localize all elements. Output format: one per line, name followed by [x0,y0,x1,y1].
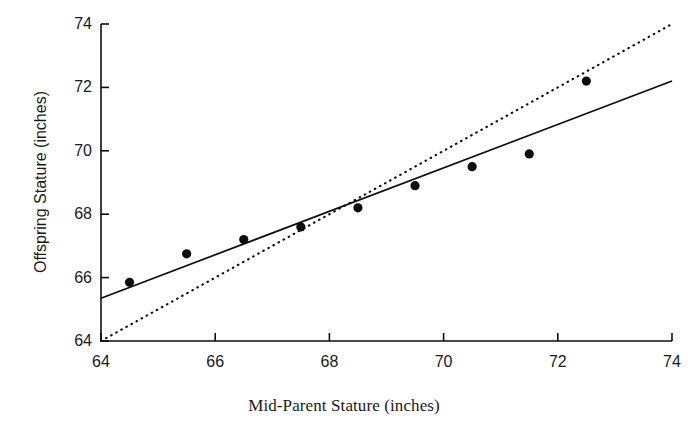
data-point [468,162,477,171]
y-axis-title: Offspring Stature (inches) [32,37,50,327]
data-point [525,149,534,158]
data-point [582,76,591,85]
x-tick-label: 70 [435,353,453,371]
data-point [296,222,305,231]
data-points [125,76,591,286]
data-point [353,203,362,212]
x-tick-label: 72 [549,353,567,371]
data-point [125,278,134,287]
x-tick-label: 74 [663,353,681,371]
y-tick-label: 74 [58,15,92,33]
data-point [182,249,191,258]
x-tick-label: 66 [206,353,224,371]
series-lines [101,24,672,341]
y-tick-label: 72 [58,78,92,96]
y-tick-label: 66 [58,269,92,287]
x-tick-label: 64 [92,353,110,371]
x-axis-ticks [101,333,672,341]
data-point [410,181,419,190]
regression-line [101,81,672,298]
scatter-plot-figure: Mid-Parent Stature (inches) Offspring St… [0,0,688,434]
y-axis-ticks [101,24,109,341]
identity-line [101,24,672,341]
x-axis-title: Mid-Parent Stature (inches) [0,396,688,416]
x-tick-label: 68 [320,353,338,371]
y-tick-label: 70 [58,142,92,160]
y-tick-label: 68 [58,205,92,223]
data-point [239,235,248,244]
y-tick-label: 64 [58,332,92,350]
